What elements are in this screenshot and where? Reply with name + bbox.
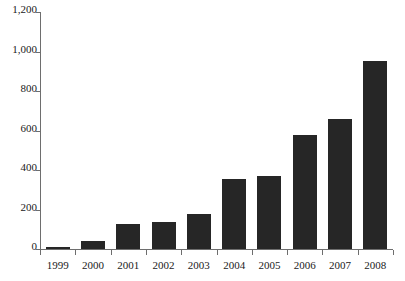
x-axis-tick-label: 2001 xyxy=(111,259,146,271)
y-axis-tick-label: 400 xyxy=(21,162,38,173)
bar xyxy=(46,247,70,249)
bar-chart: 02004006008001,0001,200 1999200020012002… xyxy=(0,0,405,281)
bar xyxy=(363,61,387,249)
bar xyxy=(187,214,211,249)
bar xyxy=(328,119,352,249)
x-axis-tick-label: 2000 xyxy=(75,259,110,271)
x-axis-tick-mark xyxy=(181,250,182,255)
bar xyxy=(116,224,140,249)
x-axis-tick-mark xyxy=(146,250,147,255)
y-axis-tick-mark xyxy=(36,131,41,132)
x-axis-tick-label: 2007 xyxy=(322,259,357,271)
bar xyxy=(81,241,105,249)
x-axis-tick-mark xyxy=(358,250,359,255)
x-axis-tick-mark xyxy=(287,250,288,255)
x-axis-tick-mark xyxy=(252,250,253,255)
bar xyxy=(222,179,246,249)
y-axis-tick-label: 1,000 xyxy=(12,44,37,55)
y-axis-tick-mark xyxy=(36,170,41,171)
x-axis-tick-mark xyxy=(393,250,394,255)
x-axis-tick-label: 2003 xyxy=(181,259,216,271)
y-axis-tick-mark xyxy=(36,91,41,92)
x-axis-tick-mark xyxy=(322,250,323,255)
y-axis-tick-label: 600 xyxy=(21,123,38,134)
bar xyxy=(152,222,176,249)
x-axis-tick-label: 2006 xyxy=(287,259,322,271)
y-axis-tick-label: 0 xyxy=(32,241,38,252)
bar xyxy=(293,135,317,249)
x-axis-tick-label: 2004 xyxy=(217,259,252,271)
y-axis-tick-mark xyxy=(36,12,41,13)
x-axis-tick-label: 1999 xyxy=(40,259,75,271)
y-axis-tick-mark xyxy=(36,210,41,211)
x-axis-tick-mark xyxy=(40,250,41,255)
y-axis-tick-label: 200 xyxy=(21,202,38,213)
y-axis-tick-label: 1,200 xyxy=(12,4,37,15)
x-axis-tick-label: 2002 xyxy=(146,259,181,271)
x-axis-tick-mark xyxy=(75,250,76,255)
bar xyxy=(257,176,281,249)
x-axis-tick-label: 2005 xyxy=(252,259,287,271)
y-axis-tick-label: 800 xyxy=(21,83,38,94)
y-axis-tick-mark xyxy=(36,52,41,53)
x-axis-tick-mark xyxy=(217,250,218,255)
x-axis-tick-mark xyxy=(111,250,112,255)
x-axis-tick-label: 2008 xyxy=(358,259,393,271)
